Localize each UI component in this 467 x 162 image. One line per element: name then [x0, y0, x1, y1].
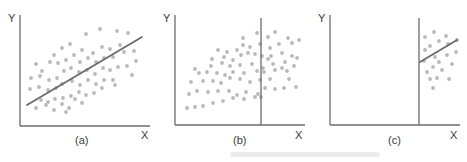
- data-point: [280, 66, 284, 70]
- data-point: [248, 45, 252, 49]
- data-point: [101, 66, 105, 70]
- data-point: [193, 105, 197, 109]
- data-point: [292, 64, 296, 68]
- data-point: [215, 71, 219, 75]
- scatter-points: [422, 30, 459, 90]
- data-point: [98, 27, 102, 31]
- data-point: [39, 98, 43, 102]
- data-point: [211, 79, 215, 83]
- data-point: [210, 57, 214, 61]
- data-point: [189, 80, 193, 84]
- panel-caption: (b): [233, 134, 246, 146]
- data-point: [84, 32, 88, 36]
- data-point: [231, 70, 235, 74]
- data-point: [122, 50, 126, 54]
- data-point: [255, 31, 259, 35]
- data-point: [193, 67, 197, 71]
- scatter-points: [185, 30, 301, 110]
- data-point: [52, 53, 56, 57]
- data-point: [261, 66, 265, 70]
- data-point: [290, 54, 294, 58]
- data-point: [431, 65, 435, 69]
- data-point: [253, 95, 257, 99]
- data-point: [195, 89, 199, 93]
- data-point: [80, 48, 84, 52]
- data-point: [423, 48, 427, 52]
- data-point: [91, 51, 95, 55]
- data-point: [297, 38, 301, 42]
- data-point: [187, 92, 191, 96]
- data-point: [269, 54, 273, 58]
- data-point: [266, 35, 270, 39]
- data-point: [206, 90, 210, 94]
- data-point: [273, 87, 277, 91]
- data-point: [428, 77, 432, 81]
- y-axis-label: Y: [8, 12, 16, 24]
- data-point: [60, 46, 64, 50]
- data-point: [440, 68, 444, 72]
- panel-a: YX(a): [8, 12, 150, 146]
- data-point: [450, 62, 454, 66]
- data-point: [253, 52, 257, 56]
- data-point: [454, 50, 458, 54]
- data-point: [244, 90, 248, 94]
- data-point: [437, 60, 441, 64]
- data-point: [423, 35, 427, 39]
- data-point: [108, 47, 112, 51]
- data-point: [100, 45, 104, 49]
- data-point: [130, 73, 134, 77]
- data-point: [201, 104, 205, 108]
- data-point: [294, 85, 298, 89]
- data-point: [92, 91, 96, 95]
- data-point: [277, 42, 281, 46]
- data-point: [185, 106, 189, 110]
- panel-caption: (a): [75, 134, 88, 146]
- data-point: [84, 93, 88, 97]
- panel-c: YX(c): [318, 12, 460, 146]
- data-point: [268, 46, 272, 50]
- data-point: [273, 68, 277, 72]
- data-point: [86, 78, 90, 82]
- data-point: [53, 97, 57, 101]
- data-point: [86, 56, 90, 60]
- data-point: [216, 89, 220, 93]
- data-point: [72, 53, 76, 57]
- data-point: [64, 110, 68, 114]
- data-point: [102, 78, 106, 82]
- data-point: [221, 99, 225, 103]
- watermark: [230, 152, 380, 157]
- data-point: [268, 77, 272, 81]
- data-point: [67, 106, 71, 110]
- data-point: [437, 39, 441, 43]
- data-point: [48, 60, 52, 64]
- x-axis-label: X: [295, 129, 303, 141]
- panel-b: YX(b): [163, 12, 305, 146]
- y-axis-label: Y: [318, 12, 326, 24]
- data-point: [235, 48, 239, 52]
- data-point: [38, 74, 42, 78]
- data-point: [432, 30, 436, 34]
- data-point: [256, 92, 260, 96]
- panel-caption: (c): [388, 134, 401, 146]
- data-point: [428, 44, 432, 48]
- data-point: [64, 58, 68, 62]
- data-point: [282, 86, 286, 90]
- data-point: [283, 60, 287, 64]
- x-axis-label: X: [141, 129, 149, 141]
- data-point: [115, 29, 119, 33]
- data-point: [290, 41, 294, 45]
- data-point: [228, 76, 232, 80]
- data-point: [100, 86, 104, 90]
- data-point: [78, 83, 82, 87]
- data-point: [248, 80, 252, 84]
- data-point: [273, 30, 277, 34]
- data-point: [113, 83, 117, 87]
- data-point: [29, 76, 33, 80]
- data-point: [78, 60, 82, 64]
- data-point: [111, 78, 115, 82]
- data-point: [266, 57, 270, 61]
- data-point: [61, 96, 65, 100]
- data-point: [435, 76, 439, 80]
- data-point: [126, 31, 130, 35]
- data-point: [44, 103, 48, 107]
